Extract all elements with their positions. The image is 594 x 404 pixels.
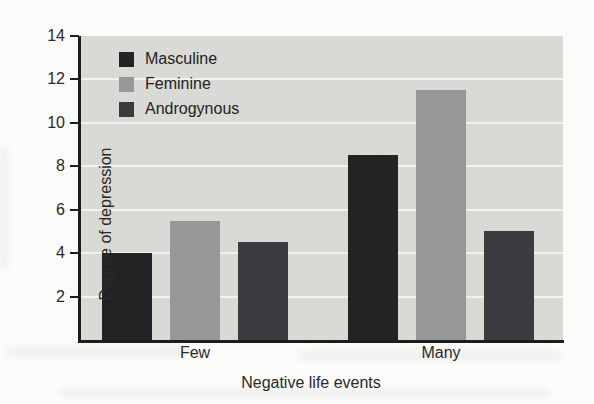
x-axis-title: Negative life events (80, 374, 542, 392)
x-axis-line (78, 340, 564, 343)
x-category-label-few: Few (150, 344, 240, 362)
y-tick-label-8: 8 (29, 157, 65, 175)
y-tick-label-4: 4 (29, 244, 65, 262)
x-category-label-many: Many (396, 344, 486, 362)
y-tick-4 (70, 252, 79, 254)
y-tick-label-10: 10 (29, 114, 65, 132)
y-tick-2 (70, 296, 79, 298)
y-axis-title: Degree of depression (96, 72, 116, 376)
y-tick-label-2: 2 (29, 288, 65, 306)
y-tick-8 (70, 165, 79, 167)
y-tick-6 (70, 209, 79, 211)
y-tick-label-14: 14 (29, 27, 65, 45)
y-tick-12 (70, 78, 79, 80)
book-figure-page: 2468101214 MasculineFeminineAndrogynous … (0, 0, 594, 404)
page-bleed-artifact (0, 148, 9, 268)
y-tick-label-6: 6 (29, 201, 65, 219)
y-axis-title-wrap: Degree of depression (81, 36, 563, 340)
y-tick-label-12: 12 (29, 70, 65, 88)
y-tick-10 (70, 122, 79, 124)
y-tick-14 (70, 35, 79, 37)
